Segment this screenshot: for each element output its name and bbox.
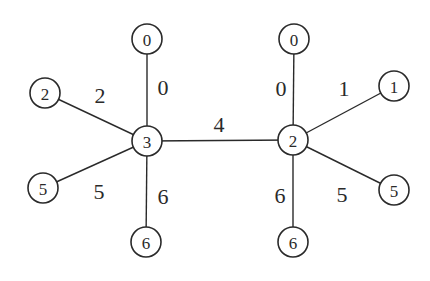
graph-node: 5 xyxy=(28,173,58,203)
graph-node: 0 xyxy=(132,24,162,54)
edge-weight-label: 2 xyxy=(95,83,106,108)
node-label: 1 xyxy=(390,78,399,97)
node-label: 0 xyxy=(290,31,299,50)
graph-node: 6 xyxy=(131,227,161,257)
edge-weight-label: 6 xyxy=(275,183,286,208)
node-label: 0 xyxy=(143,31,152,50)
node-label: 6 xyxy=(289,234,298,253)
edge-line xyxy=(147,140,293,141)
node-label: 6 xyxy=(142,234,151,253)
edge-weight-label: 0 xyxy=(276,76,287,101)
edge-weight-label: 5 xyxy=(337,182,348,207)
edge-weight-label: 5 xyxy=(94,179,105,204)
graph-node: 0 xyxy=(279,24,309,54)
edge-weight-label: 6 xyxy=(158,184,169,209)
graph-node: 2 xyxy=(30,78,60,108)
graph-node: 5 xyxy=(379,175,409,205)
graph-node: 1 xyxy=(379,71,409,101)
graph-node: 6 xyxy=(278,227,308,257)
edge-weight-label: 1 xyxy=(339,76,350,101)
node-label: 5 xyxy=(39,180,48,199)
graph-node: 2 xyxy=(278,125,308,155)
node-label: 2 xyxy=(289,132,298,151)
edge-weight-label: 4 xyxy=(214,112,225,137)
edge-weight-label: 0 xyxy=(158,75,169,100)
node-label: 2 xyxy=(41,85,50,104)
graph-diagram: 402560156 3202560156 xyxy=(0,0,430,281)
edges xyxy=(43,39,394,242)
node-label: 5 xyxy=(390,182,399,201)
graph-node: 3 xyxy=(132,126,162,156)
node-label: 3 xyxy=(143,133,152,152)
